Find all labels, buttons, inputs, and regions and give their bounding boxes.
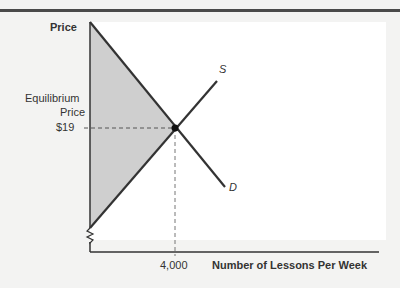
axis-break-icon	[87, 228, 93, 243]
demand-label: D	[229, 181, 237, 193]
chart-svg	[0, 0, 400, 288]
y-axis-label: Price	[50, 21, 77, 33]
supply-label: S	[219, 63, 226, 75]
equilibrium-label-line1: Equilibrium	[25, 92, 79, 104]
equilibrium-label-line2: Price	[60, 106, 85, 118]
x-axis-label: Number of Lessons Per Week	[212, 259, 367, 271]
equilibrium-point	[172, 125, 179, 132]
surplus-region	[90, 22, 175, 228]
quantity-tick-label: 4,000	[160, 259, 188, 271]
price-tick-label: $19	[56, 121, 74, 133]
